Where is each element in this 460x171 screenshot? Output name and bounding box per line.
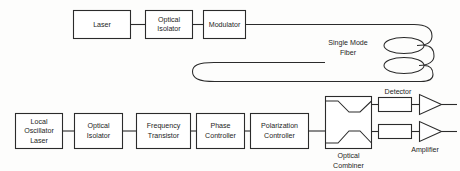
optical-system-diagram: Laser Optical Isolator Modulator (0, 0, 460, 171)
optical-isolator-top-label-line1: Optical (158, 16, 181, 24)
optical-combiner-box (326, 97, 372, 149)
amplifier-upper-triangle (420, 95, 442, 115)
phase-controller-block: Phase Controller (197, 114, 245, 149)
optical-isolator-bottom-block: Optical Isolator (75, 114, 123, 149)
amplifier-label: Amplifier (411, 146, 439, 154)
optical-combiner-label-line1: Optical (337, 152, 360, 160)
single-mode-fiber-label-line2: Fiber (340, 49, 357, 57)
optical-isolator-bottom-label-line1: Optical (87, 122, 110, 130)
single-mode-fiber-label-line1: Single Mode (328, 39, 367, 47)
local-oscillator-laser-label-line2: Oscillator (24, 127, 54, 135)
polarization-controller-label-line1: Polarization (261, 122, 298, 130)
detector-label: Detector (385, 88, 412, 96)
laser-label: Laser (93, 21, 111, 29)
frequency-transistor-block: Frequency Transistor (137, 114, 191, 149)
frequency-transistor-label-line2: Transistor (148, 132, 180, 140)
local-oscillator-laser-label-line1: Local (31, 118, 48, 126)
diagram-canvas: Laser Optical Isolator Modulator (0, 0, 460, 171)
modulator-label: Modulator (209, 21, 241, 29)
frequency-transistor-label-line1: Frequency (147, 122, 181, 130)
local-oscillator-laser-block: Local Oscillator Laser (16, 114, 63, 149)
detector-upper-box (379, 98, 412, 112)
optical-combiner-label-line2: Combiner (333, 162, 364, 170)
optical-isolator-bottom-label-line2: Isolator (87, 132, 111, 140)
optical-isolator-top-block: Optical Isolator (146, 11, 193, 39)
optical-isolator-top-label-line2: Isolator (157, 25, 181, 33)
single-mode-fiber-label: Single Mode Fiber (328, 39, 367, 57)
detector-lower-box (379, 125, 412, 139)
phase-controller-label-line2: Controller (205, 132, 236, 140)
polarization-controller-block: Polarization Controller (251, 114, 309, 149)
fiber-coil-turn-2 (419, 46, 434, 66)
modulator-block: Modulator (204, 11, 246, 39)
phase-controller-label-line1: Phase (210, 122, 230, 130)
fiber-coil-loop-2 (384, 58, 424, 74)
laser-block: Laser (74, 11, 131, 39)
local-oscillator-laser-label-line3: Laser (30, 137, 48, 145)
optical-combiner-block: Optical Combiner (326, 97, 372, 170)
fiber-hairpin-return (193, 63, 326, 82)
amplifier-lower-triangle (420, 122, 442, 142)
polarization-controller-label-line2: Controller (264, 132, 295, 140)
